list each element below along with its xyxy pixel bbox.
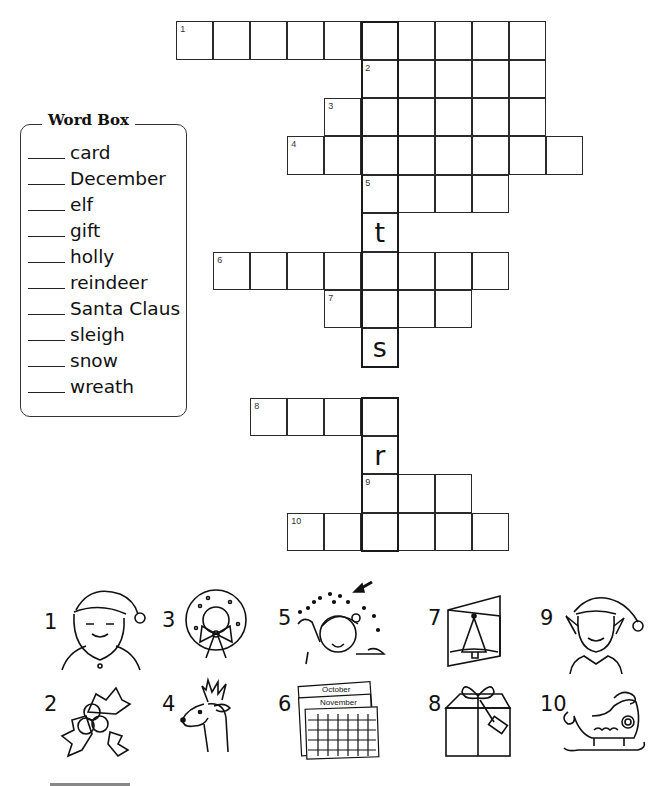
answer-blank[interactable] xyxy=(28,314,65,315)
answer-blank[interactable] xyxy=(28,236,65,237)
crossword-cell[interactable]: 3 xyxy=(324,98,361,136)
crossword-cell[interactable] xyxy=(398,513,435,551)
crossword-cell[interactable]: 1 xyxy=(176,21,213,59)
crossword-cell[interactable] xyxy=(472,513,509,551)
word-box-item: reindeer xyxy=(28,269,148,293)
crossword-cell[interactable] xyxy=(398,136,435,174)
word-box-item: sleigh xyxy=(28,321,125,345)
given-letter: t xyxy=(362,214,397,250)
given-letter: s xyxy=(362,329,397,365)
answer-blank[interactable] xyxy=(28,340,65,341)
crossword-cell[interactable] xyxy=(435,60,472,98)
word-box-item: December xyxy=(28,165,166,189)
crossword-cell[interactable] xyxy=(509,136,546,174)
crossword-cell[interactable] xyxy=(398,98,435,136)
word-label: sleigh xyxy=(70,324,125,345)
crossword-cell[interactable]: s xyxy=(361,328,398,366)
answer-blank[interactable] xyxy=(28,366,65,367)
word-box-item: wreath xyxy=(28,373,134,397)
crossword-cell[interactable] xyxy=(435,98,472,136)
word-box-title: Word Box xyxy=(42,111,135,129)
crossword-cell[interactable] xyxy=(509,21,546,59)
crossword-cell[interactable] xyxy=(435,290,472,328)
gift-icon xyxy=(442,678,522,758)
crossword-cell[interactable] xyxy=(361,290,398,328)
word-label: holly xyxy=(70,246,114,267)
crossword-cell[interactable] xyxy=(250,252,287,290)
crossword-cell[interactable] xyxy=(250,21,287,59)
crossword-cell[interactable] xyxy=(361,252,398,290)
word-label: elf xyxy=(70,194,93,215)
crossword-cell[interactable] xyxy=(435,21,472,59)
crossword-cell[interactable]: t xyxy=(361,213,398,251)
crossword-cell[interactable] xyxy=(361,21,398,59)
crossword-cell[interactable] xyxy=(361,398,398,436)
word-box-item: card xyxy=(28,139,111,163)
crossword-cell[interactable] xyxy=(398,175,435,213)
crossword-cell[interactable] xyxy=(398,21,435,59)
elf-icon xyxy=(562,582,642,677)
crossword-cell[interactable] xyxy=(398,252,435,290)
crossword-cell[interactable]: 5 xyxy=(361,175,398,213)
word-label: card xyxy=(70,142,111,163)
crossword-cell[interactable] xyxy=(324,513,361,551)
holly-icon xyxy=(60,686,140,766)
answer-blank[interactable] xyxy=(28,158,65,159)
crossword-cell[interactable] xyxy=(324,252,361,290)
calendar-october-label: October xyxy=(322,685,351,694)
snow-child-icon xyxy=(294,572,404,667)
clue-number: 3 xyxy=(162,608,175,632)
crossword-cell[interactable] xyxy=(324,21,361,59)
crossword-cell[interactable]: 4 xyxy=(287,136,324,174)
crossword-cell[interactable] xyxy=(287,21,324,59)
calendar-december-icon: October November xyxy=(298,678,382,758)
crossword-cell[interactable] xyxy=(398,290,435,328)
crossword-cell[interactable] xyxy=(472,98,509,136)
santa-claus-icon xyxy=(60,580,150,670)
crossword-cell[interactable] xyxy=(472,60,509,98)
crossword-cell[interactable] xyxy=(213,21,250,59)
crossword-cell[interactable] xyxy=(324,136,361,174)
clue-number-label: 9 xyxy=(365,477,370,487)
clue-number-label: 4 xyxy=(291,139,296,149)
crossword-cell[interactable]: 8 xyxy=(250,398,287,436)
crossword-cell[interactable] xyxy=(435,175,472,213)
answer-blank[interactable] xyxy=(28,184,65,185)
crossword-cell[interactable] xyxy=(509,60,546,98)
crossword-cell[interactable] xyxy=(509,98,546,136)
crossword-cell[interactable] xyxy=(435,136,472,174)
crossword-cell[interactable] xyxy=(398,474,435,512)
answer-blank[interactable] xyxy=(28,392,65,393)
crossword-cell[interactable] xyxy=(472,252,509,290)
crossword-cell[interactable]: r xyxy=(361,436,398,474)
crossword-cell[interactable] xyxy=(398,60,435,98)
clue-number-label: 10 xyxy=(291,516,301,526)
crossword-cell[interactable]: 7 xyxy=(324,290,361,328)
crossword-cell[interactable] xyxy=(435,252,472,290)
crossword-cell[interactable] xyxy=(546,136,583,174)
crossword-cell[interactable] xyxy=(472,175,509,213)
crossword-cell[interactable]: 6 xyxy=(213,252,250,290)
crossword-cell[interactable] xyxy=(472,21,509,59)
crossword-cell[interactable]: 9 xyxy=(361,474,398,512)
crossword-cell[interactable] xyxy=(361,136,398,174)
crossword-cell[interactable] xyxy=(361,98,398,136)
answer-blank[interactable] xyxy=(28,210,65,211)
crossword-cell[interactable] xyxy=(472,136,509,174)
crossword-cell[interactable] xyxy=(324,398,361,436)
crossword-cell[interactable] xyxy=(287,252,324,290)
crossword-cell[interactable] xyxy=(435,513,472,551)
crossword-cell[interactable]: 2 xyxy=(361,60,398,98)
crossword-cell[interactable]: 10 xyxy=(287,513,324,551)
clue-number-label: 3 xyxy=(328,101,333,111)
word-label: December xyxy=(70,168,166,189)
word-label: Santa Claus xyxy=(70,298,180,319)
christmas-card-icon xyxy=(444,590,514,680)
word-box-item: holly xyxy=(28,243,114,267)
reindeer-icon xyxy=(174,678,244,758)
answer-blank[interactable] xyxy=(28,262,65,263)
crossword-cell[interactable] xyxy=(361,513,398,551)
crossword-cell[interactable] xyxy=(287,398,324,436)
crossword-cell[interactable] xyxy=(435,474,472,512)
answer-blank[interactable] xyxy=(28,288,65,289)
